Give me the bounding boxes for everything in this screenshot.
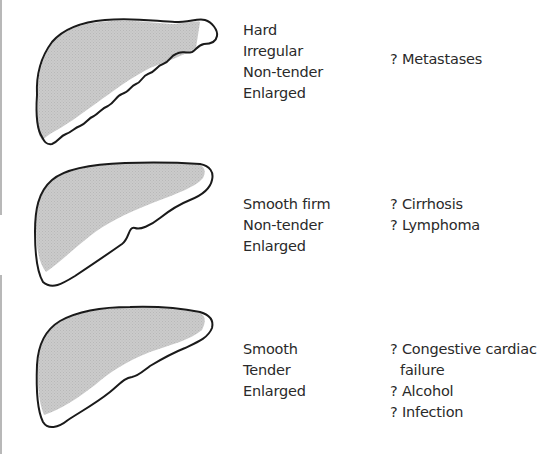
liver-smooth-firm-icon [35,163,213,286]
feature-text: Hard [243,20,323,41]
features-list-row-1: Hard Irregular Non-tender Enlarged [243,20,323,104]
feature-text: Non-tender [243,62,323,83]
diagnosis-text: ? Infection [390,402,537,423]
diagnosis-text-continuation: failure [390,360,537,381]
feature-text: Smooth firm [243,194,330,215]
diagnoses-list-row-3: ? Congestive cardiac failure ? Alcohol ?… [390,339,537,423]
diagnoses-list-row-1: ? Metastases [390,49,482,70]
features-list-row-2: Smooth firm Non-tender Enlarged [243,194,330,257]
feature-text: Enlarged [243,236,330,257]
feature-text: Tender [243,360,306,381]
feature-text: Irregular [243,41,323,62]
feature-text: Smooth [243,339,306,360]
liver-smooth-tender-icon [37,307,213,427]
diagnosis-text: ? Cirrhosis [390,194,480,215]
feature-text: Non-tender [243,215,330,236]
diagnosis-text: ? Lymphoma [390,215,480,236]
diagnoses-list-row-2: ? Cirrhosis ? Lymphoma [390,194,480,236]
feature-text: Enlarged [243,83,323,104]
diagnosis-text: ? Alcohol [390,381,537,402]
feature-text: Enlarged [243,381,306,402]
diagnosis-text: ? Metastases [390,49,482,70]
diagnosis-text: ? Congestive cardiac [390,339,537,360]
features-list-row-3: Smooth Tender Enlarged [243,339,306,402]
liver-irregular-icon [37,19,218,144]
